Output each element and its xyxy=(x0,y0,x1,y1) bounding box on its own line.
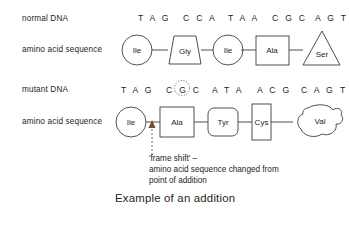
amino-acid-shape-normal-ile-1 xyxy=(122,35,152,65)
frame-shift-pointer xyxy=(148,120,155,155)
frame-shift-annotation-line-2: amino acid sequence changed from xyxy=(149,165,279,176)
frame-shift-annotation-line-3: point of addition xyxy=(149,176,207,187)
figure-caption: Example of an addition xyxy=(115,192,235,204)
amino-acid-shape-normal-ile-2 xyxy=(213,35,243,65)
amino-acid-shape-mutant-tyr xyxy=(208,108,238,136)
amino-acid-shape-normal-gly xyxy=(169,36,201,64)
amino-acid-shape-normal-ser xyxy=(303,31,340,65)
frame-shift-annotation-line-1: 'frame shift' – xyxy=(149,154,197,165)
amino-acid-shape-mutant-ala xyxy=(160,107,194,137)
amino-acid-shape-mutant-cys xyxy=(252,104,271,140)
amino-acid-shape-mutant-ile xyxy=(116,107,146,137)
amino-acid-shape-normal-ala xyxy=(256,36,289,65)
inserted-base-highlight-circle xyxy=(175,81,190,96)
amino-acid-shape-mutant-val xyxy=(298,105,343,137)
